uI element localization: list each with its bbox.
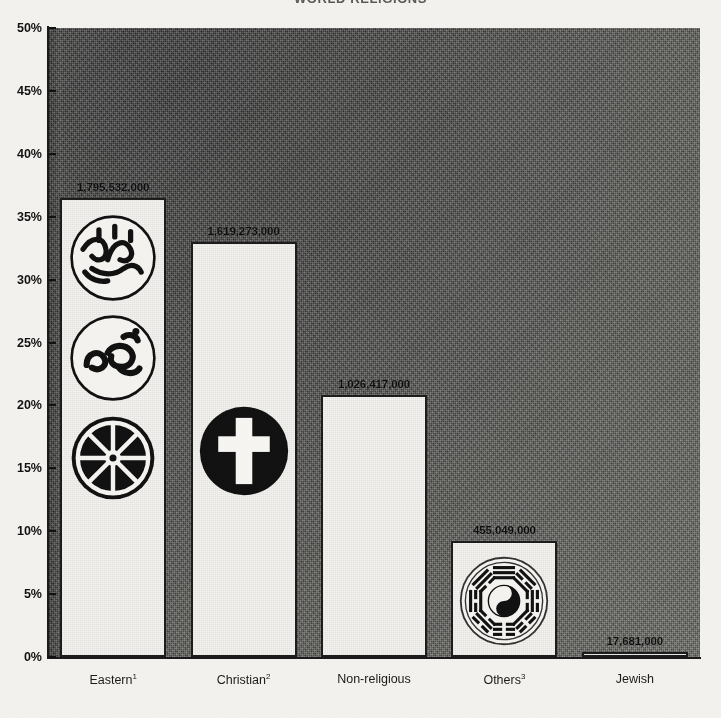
bar-data-label: 455,049,000 bbox=[449, 524, 559, 536]
bar-christian[interactable] bbox=[191, 242, 297, 657]
y-axis-tick-text: 30% bbox=[17, 273, 48, 287]
x-axis-label-footnote: 2 bbox=[266, 672, 270, 681]
bar-others[interactable] bbox=[451, 541, 557, 657]
y-axis-tick-label: 15% bbox=[0, 461, 48, 475]
y-axis-tick-mark bbox=[49, 530, 56, 532]
bar-data-label: 17,681,000 bbox=[580, 635, 690, 647]
y-axis-tick-label: 25% bbox=[0, 336, 48, 350]
bar-texture bbox=[584, 654, 686, 655]
y-axis-tick-text: 0% bbox=[24, 650, 48, 664]
y-axis-tick-text: 15% bbox=[17, 461, 48, 475]
y-axis-tick-mark bbox=[49, 593, 56, 595]
bar-data-label: 1,619,273,000 bbox=[189, 225, 299, 237]
y-axis-tick-label: 45% bbox=[0, 84, 48, 98]
dharma-wheel-icon bbox=[69, 414, 157, 502]
x-axis-label-footnote: 3 bbox=[521, 672, 525, 681]
y-axis-tick-text: 50% bbox=[17, 21, 48, 35]
y-axis-tick-mark bbox=[49, 216, 56, 218]
bar-data-label: 1,795,532,000 bbox=[58, 181, 168, 193]
y-axis-tick-text: 40% bbox=[17, 147, 48, 161]
bar-eastern[interactable] bbox=[60, 198, 166, 657]
y-axis-tick-label: 20% bbox=[0, 398, 48, 412]
y-axis-tick-mark bbox=[49, 153, 56, 155]
x-axis-label-eastern: Eastern1 bbox=[43, 672, 183, 687]
y-axis-tick-label: 40% bbox=[0, 147, 48, 161]
x-axis-label-others: Others3 bbox=[434, 672, 574, 687]
y-axis-tick-text: 10% bbox=[17, 524, 48, 538]
y-axis-tick-text: 5% bbox=[24, 587, 48, 601]
bagua-yinyang-icon bbox=[458, 555, 550, 647]
y-axis-tick-mark bbox=[49, 279, 56, 281]
plot-area: 1,795,532,0001,619,273,0001,026,417,0004… bbox=[48, 28, 700, 657]
x-axis-label-christian: Christian2 bbox=[174, 672, 314, 687]
chart-title: WORLD RELIGIONS bbox=[0, 0, 721, 5]
x-axis-line bbox=[47, 657, 701, 659]
x-axis-label-jewish: Jewish bbox=[565, 672, 705, 686]
y-axis-tick-mark bbox=[49, 27, 56, 29]
y-axis-tick-text: 25% bbox=[17, 336, 48, 350]
y-axis-tick-text: 20% bbox=[17, 398, 48, 412]
x-axis-label-footnote: 1 bbox=[133, 672, 137, 681]
christian-cross-icon bbox=[198, 405, 290, 497]
y-axis-tick-label: 0% bbox=[0, 650, 48, 664]
y-axis-tick-mark bbox=[49, 467, 56, 469]
bar-non-religious[interactable] bbox=[321, 395, 427, 657]
x-axis-label-non-religious: Non-religious bbox=[304, 672, 444, 686]
islamic-crescent-calligraphy-icon bbox=[69, 214, 157, 302]
y-axis-tick-text: 35% bbox=[17, 210, 48, 224]
y-axis-tick-label: 5% bbox=[0, 587, 48, 601]
bar-texture bbox=[323, 397, 425, 655]
y-axis-tick-mark bbox=[49, 342, 56, 344]
y-axis-tick-label: 30% bbox=[0, 273, 48, 287]
y-axis-tick-label: 10% bbox=[0, 524, 48, 538]
bar-data-label: 1,026,417,000 bbox=[319, 378, 429, 390]
y-axis-tick-mark bbox=[49, 656, 56, 658]
y-axis-tick-label: 50% bbox=[0, 21, 48, 35]
y-axis-tick-mark bbox=[49, 404, 56, 406]
om-icon bbox=[69, 314, 157, 402]
y-axis-tick-label: 35% bbox=[0, 210, 48, 224]
y-axis-tick-mark bbox=[49, 90, 56, 92]
y-axis-tick-text: 45% bbox=[17, 84, 48, 98]
